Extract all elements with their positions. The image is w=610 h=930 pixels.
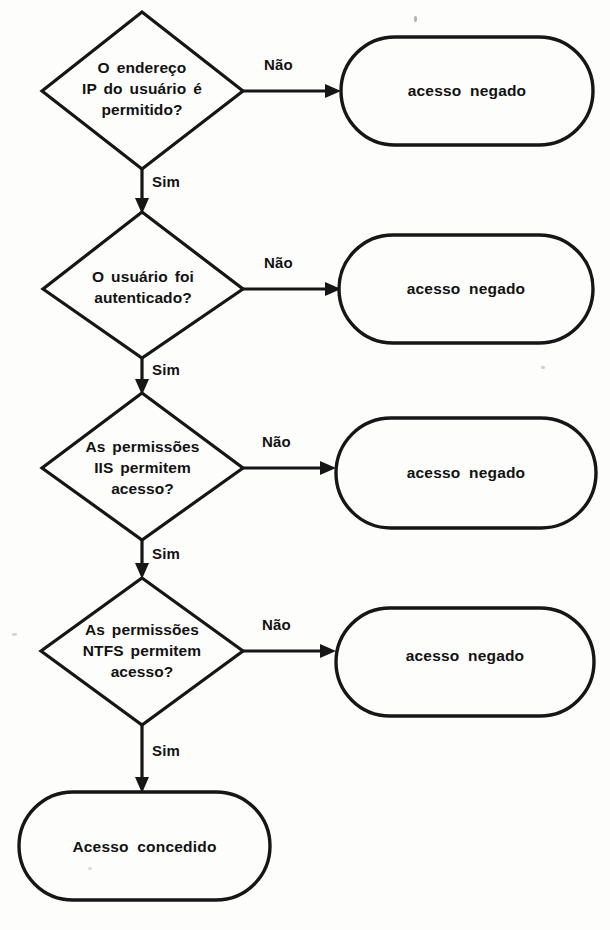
edge-d4-no-label: Não bbox=[262, 616, 291, 633]
edge-d4-no-arrowhead bbox=[320, 644, 336, 658]
scan-speck bbox=[12, 633, 17, 636]
scan-speck bbox=[88, 867, 92, 870]
edge-d3-no-label: Não bbox=[262, 433, 291, 450]
edge-d2-yes-label: Sim bbox=[152, 361, 180, 378]
node-acesso-negado-2-label: acesso negado bbox=[339, 279, 593, 299]
edge-d1-no-label: Não bbox=[264, 56, 293, 73]
edge-d3-no-arrowhead bbox=[320, 461, 336, 475]
node-acesso-negado-3-label: acesso negado bbox=[336, 463, 596, 483]
scan-speck bbox=[414, 16, 417, 22]
node-acesso-negado-4-label: acesso negado bbox=[336, 646, 594, 666]
decision-permissoes-ntfs-shape[interactable] bbox=[41, 578, 243, 725]
edge-d3-yes-label: Sim bbox=[152, 545, 180, 562]
decision-usuario-autenticado-shape[interactable] bbox=[43, 212, 243, 358]
edge-d1-yes-label: Sim bbox=[152, 173, 180, 190]
node-acesso-concedido-label: Acesso concedido bbox=[19, 837, 270, 857]
edge-d2-no-label: Não bbox=[264, 254, 293, 271]
decision-ip-permitido-shape[interactable] bbox=[42, 12, 243, 169]
flowchart-canvas: O endereço IP do usuário é permitido? O … bbox=[0, 0, 610, 930]
scan-speck bbox=[541, 366, 545, 369]
decision-permissoes-iis-shape[interactable] bbox=[42, 393, 243, 540]
node-acesso-negado-1-label: acesso negado bbox=[341, 81, 593, 101]
edge-d1-no-arrowhead bbox=[325, 84, 341, 98]
edge-d4-yes-label: Sim bbox=[152, 742, 180, 759]
